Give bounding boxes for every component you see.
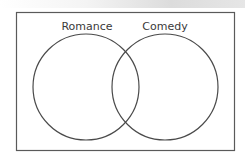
venn-diagram: Romance Comedy bbox=[0, 0, 245, 157]
universal-set-rectangle bbox=[17, 13, 235, 151]
comedy-label: Comedy bbox=[142, 20, 188, 33]
romance-label: Romance bbox=[61, 20, 112, 33]
